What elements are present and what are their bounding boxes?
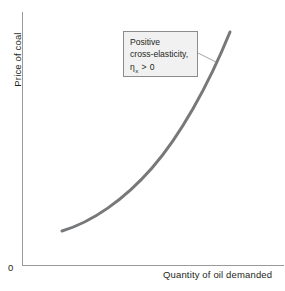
callout-line-1: Positive: [130, 36, 197, 48]
callout-line-3: ηx > 0: [130, 61, 197, 77]
cross-elasticity-figure: Price of coal Quantity of oil demanded 0…: [0, 0, 285, 291]
positive-cross-elasticity-callout: Positive cross-elasticity, ηx > 0: [123, 31, 198, 77]
x-axis-label: Quantity of oil demanded: [163, 269, 272, 280]
y-axis-label: Price of coal: [12, 5, 23, 115]
origin-label: 0: [8, 262, 13, 273]
callout-leader-line: [198, 53, 216, 62]
callout-line-2: cross-elasticity,: [130, 48, 197, 60]
eta-relation: > 0: [141, 62, 154, 72]
eta-subscript: x: [135, 67, 139, 74]
